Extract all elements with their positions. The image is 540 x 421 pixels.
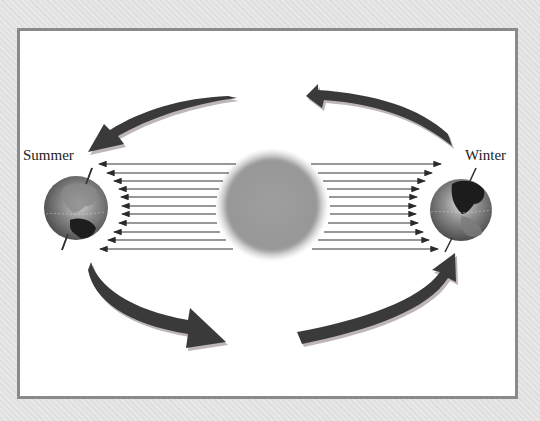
earth-globe-summer: [44, 168, 108, 250]
orbit-diagram: [0, 0, 540, 421]
sun-rays-left: [99, 164, 236, 249]
sun-rays-right: [311, 164, 441, 249]
sun: [217, 150, 327, 260]
orbit-arrow-bottom-left: [88, 262, 226, 348]
earth-globe-winter: [430, 168, 492, 252]
orbit-arrow-top-right: [306, 84, 452, 146]
summer-label: Summer: [23, 148, 74, 163]
winter-label: Winter: [465, 148, 506, 163]
